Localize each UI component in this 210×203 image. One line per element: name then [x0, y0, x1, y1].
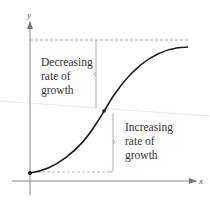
- increasing-bracket: [110, 113, 115, 172]
- svg-text:Decreasing: Decreasing: [41, 56, 93, 69]
- decreasing-bracket: [94, 40, 96, 108]
- svg-text:rate of: rate of: [125, 135, 155, 147]
- decreasing-rate-label: Decreasing rate of growth: [41, 56, 93, 97]
- y-axis-label: y: [26, 10, 31, 20]
- inflection-point: [102, 109, 106, 113]
- x-axis-label: x: [198, 176, 203, 186]
- svg-text:growth: growth: [41, 84, 74, 97]
- svg-text:growth: growth: [125, 149, 158, 162]
- svg-text:Increasing: Increasing: [125, 121, 173, 134]
- increasing-rate-label: Increasing rate of growth: [125, 121, 173, 162]
- svg-text:rate of: rate of: [41, 70, 71, 82]
- logistic-growth-diagram: y x Decreasing rate of growth Increasing…: [0, 0, 210, 203]
- initial-point: [28, 171, 32, 175]
